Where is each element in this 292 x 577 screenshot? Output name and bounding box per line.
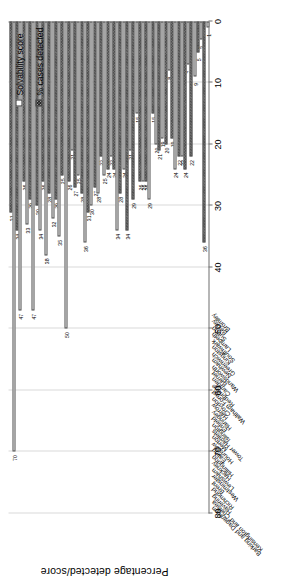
bar-cases-detected [99,21,102,156]
bar-group: 2728 [92,21,98,513]
bar-group: 2422 [105,21,111,513]
bar-value-label: 31 [86,215,91,221]
bar-cases-detected [112,21,115,169]
bar-group: 3130 [85,21,91,513]
bar-group: 2434 [111,21,117,513]
bar-chart-figure: 3170344726332947303426382832293525502621… [0,0,292,577]
bar-cases-detected [151,21,154,113]
bar-group: 2550 [60,21,66,513]
legend-item-solvability-score: Solvability score [14,10,24,106]
axis-label-value: Percentage detected/score [40,565,168,577]
bar-cases-detected [138,21,141,181]
bar-cases-detected [164,21,167,144]
bar-value-label: 24 [183,172,188,178]
bar-cases-detected [80,21,83,193]
bar-value-label: 27 [73,190,78,196]
bar-group: 2626 [137,21,143,513]
bar-group: 1924 [169,21,175,513]
bar-cases-detected [144,21,147,181]
bar-solvability-score [206,21,209,27]
bar-value-label: 5 [196,58,201,61]
bar-cases-detected [170,21,173,138]
legend-label-solvability: Solvability score [14,33,24,95]
bar-cases-detected [86,21,89,212]
bar-cases-detected [125,21,128,230]
bar-cases-detected [189,21,192,156]
bar-value-label: 26 [67,184,72,190]
bar-group: 2629 [143,21,149,513]
bar-group: 2119 [156,21,162,513]
bar-group: 53 [195,21,201,513]
bar-cases-detected [157,21,160,150]
legend-label-detected: % cases detected [34,27,44,95]
bar-group: 3421 [124,21,130,513]
bar-group: 2222 [176,21,182,513]
bar-value-label: 34 [125,233,130,239]
legend-swatch-solvability-icon [15,99,22,106]
bar-cases-detected [73,21,76,187]
bar-cases-detected [93,21,96,187]
legend-item-cases-detected: % cases detected [34,10,44,106]
chart-screenshot: 3170344726332947303426382832293525502621… [0,0,292,577]
bar-cases-detected [183,21,186,169]
bar-value-label: 20 [164,147,169,153]
bar-value-label: 36 [202,246,207,252]
bar-group: 2836 [79,21,85,513]
bar-group: 2915 [131,21,137,513]
bar-group: 247 [182,21,188,513]
legend-swatch-detected-icon [35,99,42,106]
chart-legend: Solvability score % cases detected [14,10,54,106]
bar-cases-detected [177,21,180,156]
bar-value-label: 24 [106,172,111,178]
bar-value-label: 22 [189,160,194,166]
bar-group: 2225 [98,21,104,513]
bar-cases-detected [9,21,12,212]
bar-group: 208 [163,21,169,513]
bar-group: 3170 [8,21,14,513]
bar-value-label: 29 [131,203,136,209]
bar-cases-detected [60,21,63,175]
bar-cases-detected [118,21,121,193]
bar-group: 2621 [66,21,72,513]
bar-cases-detected [131,21,134,199]
category-axis-labels: Barking and DagenhamKensington and Chels… [210,21,290,513]
bar-group: 2725 [73,21,79,513]
bar-cases-detected [106,21,109,169]
bar-group: 229 [189,21,195,513]
bar-group: 2824 [118,21,124,513]
bar-group: 361 [202,21,208,513]
bar-group: 1520 [150,21,156,513]
bar-value-label: 28 [118,196,123,202]
bar-cases-detected [202,21,205,242]
bar-value-label: 21 [157,153,162,159]
